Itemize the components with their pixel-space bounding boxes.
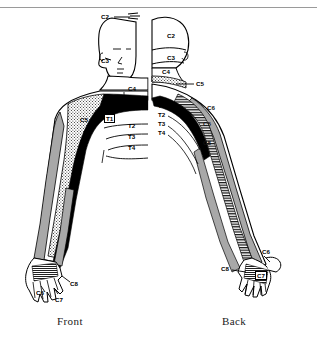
label-back-c8-hand: C8 — [221, 266, 229, 272]
label-front-t3: T3 — [128, 134, 135, 140]
label-front-t2: T2 — [128, 123, 135, 129]
dermatome-figure-page: C2 C3 C4 C5 T1 T2 T3 T4 C6 C7 C8 C2 C3 C… — [0, 0, 317, 337]
label-back-t3: T3 — [158, 121, 165, 127]
label-front-c2: C2 — [101, 14, 109, 20]
label-back-c5-arm: C5 — [203, 121, 211, 127]
caption-front: Front — [57, 315, 83, 327]
label-front-c6: C6 — [36, 290, 44, 296]
front-neck — [100, 76, 148, 90]
caption-back: Back — [222, 315, 246, 327]
back-t4-leader-line — [168, 135, 196, 174]
label-front-c4: C4 — [128, 86, 136, 92]
label-back-t1: T1 — [158, 103, 165, 109]
label-back-c5-neck: C5 — [196, 81, 204, 87]
label-front-c7: C7 — [55, 297, 63, 303]
label-back-c6-shoulder: C6 — [207, 105, 215, 111]
label-front-t4: T4 — [128, 145, 135, 151]
label-back-t2: T2 — [158, 112, 165, 118]
label-back-t4: T4 — [158, 130, 165, 136]
label-back-c2: C2 — [167, 33, 175, 39]
label-back-c8-arm: C8 — [203, 140, 211, 146]
label-front-c8: C8 — [70, 281, 78, 287]
front-view-body — [26, 13, 148, 302]
label-front-c3: C3 — [101, 58, 109, 64]
front-c2-arrow-marks — [128, 13, 140, 19]
label-front-t1: T1 — [104, 114, 115, 123]
dermatome-illustration — [0, 0, 317, 337]
label-back-c4: C4 — [162, 69, 170, 75]
label-back-c3: C3 — [167, 55, 175, 61]
label-back-c7-hand: C7 — [255, 271, 267, 280]
label-front-c5: C5 — [80, 117, 88, 123]
label-back-c6-hand: C6 — [262, 249, 270, 255]
front-c8-leader-line — [62, 276, 70, 282]
back-thumb-outline — [266, 257, 281, 272]
